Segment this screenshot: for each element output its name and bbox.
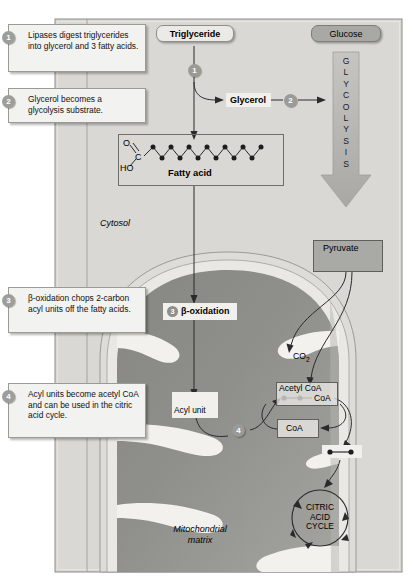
fatty-acid-hydroxyl-label: HO bbox=[120, 163, 134, 173]
callout-3-number: 3 bbox=[2, 294, 15, 307]
cytosol-label: Cytosol bbox=[100, 218, 160, 229]
glycolysis-letter: C bbox=[340, 90, 352, 101]
glycolysis-letter: G bbox=[340, 56, 352, 67]
step-marker-3: 3 bbox=[167, 306, 178, 317]
pyruvate-label: Pyruvate bbox=[323, 243, 359, 253]
acetyl-coa-label: Acetyl CoA bbox=[279, 383, 322, 393]
acyl-unit-label: Acyl unit bbox=[174, 405, 206, 415]
coa-label: CoA bbox=[286, 423, 303, 433]
glycolysis-letter: L bbox=[340, 67, 352, 78]
co2-label: CO2 bbox=[293, 351, 310, 363]
fatty-acid-oxygen-label: O bbox=[123, 138, 130, 148]
fatty-acid-box bbox=[118, 134, 284, 186]
callout-2-text: Glycerol becomes a glycolysis substrate. bbox=[28, 94, 103, 115]
callout-4-text: Acyl units become acetyl CoA and can be … bbox=[28, 389, 138, 420]
diagram-canvas: 1 Lipases digest triglycerides into glyc… bbox=[0, 0, 413, 581]
triglyceride-label: Triglyceride bbox=[156, 25, 234, 42]
glycolysis-letter: O bbox=[340, 102, 352, 113]
beta-oxidation-badge: 3β-oxidation bbox=[163, 303, 237, 320]
glycolysis-letter: Y bbox=[340, 124, 352, 135]
mitochondrial-matrix-label: Mitochondrial matrix bbox=[155, 524, 245, 546]
callout-4: 4 Acyl units become acetyl CoA and can b… bbox=[8, 383, 146, 438]
glycolysis-letter: I bbox=[340, 147, 352, 158]
glycolysis-label: G L Y C O L Y S I S bbox=[340, 56, 352, 170]
acetyl-coa-tail-label: CoA bbox=[314, 393, 331, 403]
callout-1-text: Lipases digest triglycerides into glycer… bbox=[28, 30, 138, 51]
callout-2: 2 Glycerol becomes a glycolysis substrat… bbox=[8, 88, 146, 123]
callout-1: 1 Lipases digest triglycerides into glyc… bbox=[8, 24, 146, 72]
fatty-acid-carbon-label: C bbox=[135, 152, 142, 162]
callout-4-number: 4 bbox=[2, 390, 15, 403]
callout-1-number: 1 bbox=[2, 31, 15, 44]
step-marker-2: 2 bbox=[284, 94, 297, 107]
beta-oxidation-label: β-oxidation bbox=[181, 306, 230, 316]
glycolysis-letter: Y bbox=[340, 79, 352, 90]
glycerol-label: Glycerol bbox=[226, 93, 271, 107]
co2-text: CO bbox=[293, 351, 306, 361]
callout-3-text: β-oxidation chops 2-carbon acyl units of… bbox=[28, 293, 131, 314]
step-marker-1: 1 bbox=[188, 64, 201, 77]
glycolysis-letter: S bbox=[340, 159, 352, 170]
fatty-acid-label: Fatty acid bbox=[168, 167, 212, 178]
co2-subscript: 2 bbox=[306, 356, 310, 363]
callout-3: 3 β-oxidation chops 2-carbon acyl units … bbox=[8, 287, 146, 333]
glycolysis-letter: S bbox=[340, 136, 352, 147]
glycolysis-letter: L bbox=[340, 113, 352, 124]
step-marker-4: 4 bbox=[232, 424, 245, 437]
glucose-label: Glucose bbox=[311, 25, 381, 42]
callout-2-number: 2 bbox=[2, 95, 15, 108]
citric-acid-cycle-label: CITRIC ACID CYCLE bbox=[296, 503, 344, 532]
